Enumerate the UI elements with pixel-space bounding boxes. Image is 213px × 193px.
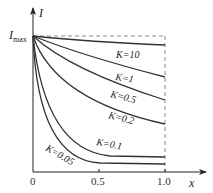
label-k-0.2: K=0.2 bbox=[107, 109, 136, 126]
x-tick-label-0: 0 bbox=[30, 175, 36, 187]
label-k-0.1: K=0.1 bbox=[95, 136, 123, 152]
imax-label: Imax bbox=[8, 28, 27, 44]
x-tick-label-1.0: 1.0 bbox=[157, 175, 171, 187]
curve-k-0.5 bbox=[33, 36, 165, 100]
x-tick-label-0.5: 0.5 bbox=[91, 175, 105, 187]
x-axis-label: x bbox=[188, 176, 195, 190]
label-k-0.5: K=0.5 bbox=[109, 88, 138, 105]
curve-k-0.2 bbox=[33, 36, 165, 124]
y-axis-label: I bbox=[38, 6, 44, 20]
label-k-0.05: K=0.05 bbox=[43, 142, 76, 167]
decay-curves-chart: K=10 K=1 K=0.5 K=0.2 K=0.1 K=0.05 I x Im… bbox=[0, 0, 213, 193]
label-k-10: K=10 bbox=[115, 49, 139, 60]
